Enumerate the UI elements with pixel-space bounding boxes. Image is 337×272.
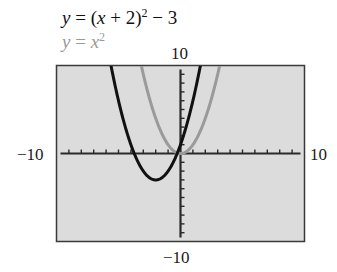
graph-window xyxy=(0,0,337,272)
